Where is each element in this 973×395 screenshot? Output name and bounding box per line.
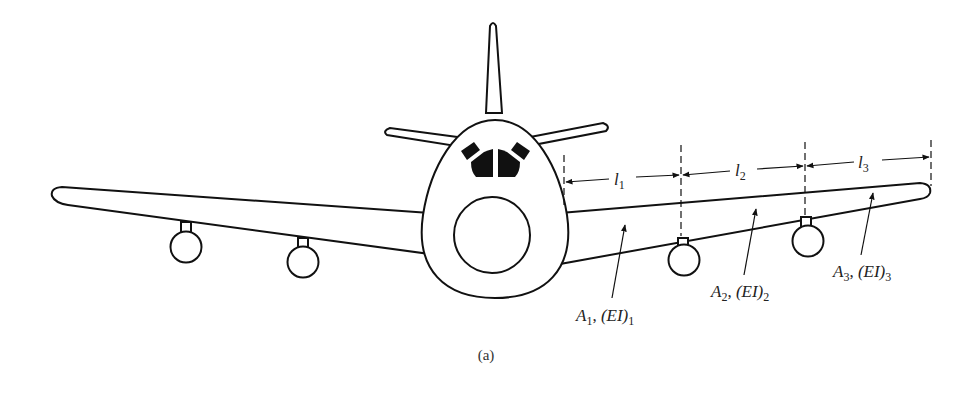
segment-label-2: A2, (EI)2 <box>710 282 769 304</box>
dimension-l3: l3 <box>807 153 929 175</box>
left-outer-engine <box>171 222 202 263</box>
segment-label-3: A3, (EI)3 <box>832 262 891 284</box>
airplane-diagram: l1 l2 l3 A1, (EI)1 A2, (EI)2 A3, (EI)3 (… <box>0 0 973 395</box>
right-wing <box>560 183 930 264</box>
tail-fin <box>486 23 502 113</box>
dimension-l1: l1 <box>566 170 679 192</box>
svg-text:l1: l1 <box>614 170 625 192</box>
fuselage-intake <box>454 197 530 273</box>
dimension-l2: l2 <box>683 161 803 183</box>
svg-text:l3: l3 <box>858 153 869 175</box>
segment-label-1: A1, (EI)1 <box>575 306 634 328</box>
left-wing <box>52 187 430 254</box>
figure-caption: (a) <box>478 347 495 364</box>
left-inner-engine <box>288 238 319 278</box>
right-outer-engine <box>793 217 824 257</box>
svg-text:l2: l2 <box>735 161 746 183</box>
